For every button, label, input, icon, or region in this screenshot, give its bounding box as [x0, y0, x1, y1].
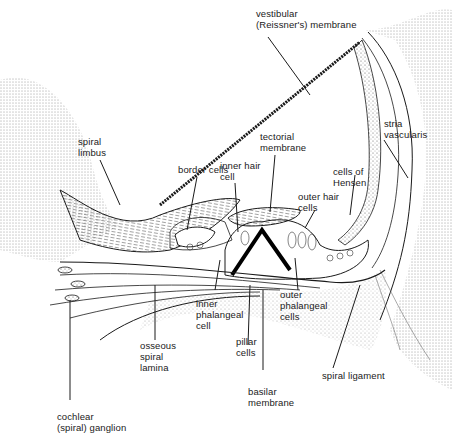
label-stria-vascularis: stria vascularis	[384, 118, 427, 140]
pillar-cells	[232, 230, 290, 275]
label-outer-phalangeal-cells: outer phalangeal cells	[280, 289, 328, 322]
tectorial-membrane	[228, 208, 300, 226]
label-osseous-spiral-lamina: osseous spiral lamina	[140, 340, 176, 373]
label-tectorial-membrane: tectorial membrane	[260, 131, 306, 153]
basilar-membrane	[60, 262, 385, 283]
label-vestibular-membrane: vestibular (Reissner's) membrane	[256, 8, 357, 30]
label-cells-of-hensen: cells of Hensen	[333, 166, 366, 188]
ganglion-cells	[58, 267, 85, 301]
label-basilar-membrane: basilar membrane	[248, 386, 294, 408]
label-spiral-limbus: spiral limbus	[78, 136, 106, 158]
label-inner-phalangeal-cell: inner phalangeal cell	[196, 298, 244, 331]
organ-of-corti	[225, 220, 368, 279]
label-inner-hair-cell: inner hair cell	[220, 160, 261, 182]
label-pillar-cells: pillar cells	[236, 336, 257, 358]
stria-vascularis-band	[338, 40, 381, 245]
label-outer-hair-cells: outer hair cells	[298, 191, 339, 213]
label-cochlear-ganglion: cochlear (spiral) ganglion	[57, 411, 126, 433]
label-spiral-ligament: spiral ligament	[322, 370, 385, 381]
